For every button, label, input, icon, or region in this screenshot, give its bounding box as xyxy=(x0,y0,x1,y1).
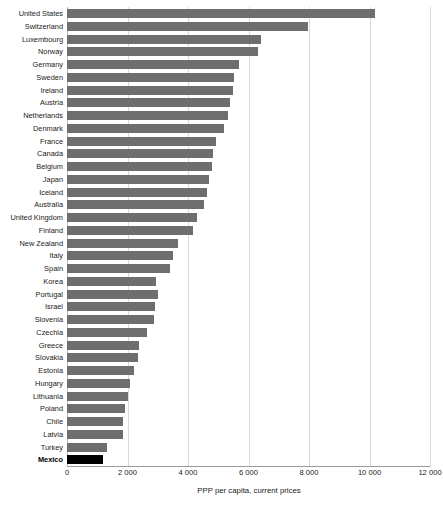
category-label: Czechia xyxy=(0,326,63,340)
bar xyxy=(67,366,134,375)
bar xyxy=(67,443,107,452)
bar-row xyxy=(67,224,430,238)
category-label: Mexico xyxy=(0,453,63,467)
bar xyxy=(67,264,170,273)
bar-row xyxy=(67,109,430,123)
bar-row xyxy=(67,441,430,455)
bar xyxy=(67,137,216,146)
bar-row xyxy=(67,364,430,378)
bar xyxy=(67,290,158,299)
category-label: United States xyxy=(0,7,63,21)
x-axis-tick-label: 8 000 xyxy=(299,468,318,477)
category-label: New Zealand xyxy=(0,237,63,251)
category-label: Spain xyxy=(0,262,63,276)
bar-row xyxy=(67,288,430,302)
bar xyxy=(67,392,128,401)
bar xyxy=(67,22,308,31)
x-axis-tick-label: 0 xyxy=(65,468,69,477)
category-label: Latvia xyxy=(0,428,63,442)
category-label: Canada xyxy=(0,147,63,161)
category-label: Sweden xyxy=(0,71,63,85)
bar xyxy=(67,200,204,209)
bar-row xyxy=(67,300,430,314)
bar xyxy=(67,188,207,197)
bar-row xyxy=(67,275,430,289)
category-label: Netherlands xyxy=(0,109,63,123)
x-axis-tick-label: 12 000 xyxy=(418,468,441,477)
bar-row xyxy=(67,198,430,212)
bar-row xyxy=(67,249,430,263)
bar-row xyxy=(67,33,430,47)
category-label: Germany xyxy=(0,58,63,72)
x-axis-tick-label: 4 000 xyxy=(178,468,197,477)
bar-row xyxy=(67,186,430,200)
bar xyxy=(67,86,233,95)
gridline xyxy=(430,7,431,466)
bar-row xyxy=(67,326,430,340)
bar-row xyxy=(67,147,430,161)
bar-row xyxy=(67,84,430,98)
bar xyxy=(67,162,212,171)
category-label: Norway xyxy=(0,45,63,59)
bar xyxy=(67,149,213,158)
bar-row xyxy=(67,160,430,174)
bar xyxy=(67,239,178,248)
bar-row xyxy=(67,415,430,429)
bar-row xyxy=(67,45,430,59)
bar xyxy=(67,9,375,18)
bar xyxy=(67,328,147,337)
category-label: Korea xyxy=(0,275,63,289)
bar xyxy=(67,277,156,286)
x-axis-tick-labels: 02 0004 0006 0008 00010 00012 000 xyxy=(67,468,430,482)
category-label: Israel xyxy=(0,300,63,314)
bar-row xyxy=(67,135,430,149)
bar xyxy=(67,251,173,260)
bar xyxy=(67,404,125,413)
bar-row xyxy=(67,402,430,416)
bar-row xyxy=(67,173,430,187)
category-label: Greece xyxy=(0,339,63,353)
bar xyxy=(67,417,123,426)
bar-row xyxy=(67,71,430,85)
bar-row xyxy=(67,7,430,21)
category-label: Luxembourg xyxy=(0,33,63,47)
bar xyxy=(67,315,154,324)
bar-row xyxy=(67,20,430,34)
x-axis-tick-label: 2 000 xyxy=(118,468,137,477)
category-label: Turkey xyxy=(0,441,63,455)
bar-chart: United StatesSwitzerlandLuxembourgNorway… xyxy=(0,0,443,508)
category-label: Poland xyxy=(0,402,63,416)
bar-row xyxy=(67,339,430,353)
bar xyxy=(67,111,228,120)
x-axis-tick-label: 10 000 xyxy=(358,468,381,477)
category-label: Portugal xyxy=(0,288,63,302)
bar xyxy=(67,341,139,350)
category-label: Finland xyxy=(0,224,63,238)
bar xyxy=(67,60,239,69)
x-axis-line xyxy=(67,466,430,467)
bar xyxy=(67,455,103,464)
bar xyxy=(67,302,155,311)
bar-row xyxy=(67,351,430,365)
category-label: Slovakia xyxy=(0,351,63,365)
bar-row xyxy=(67,122,430,136)
category-label: Australia xyxy=(0,198,63,212)
bar xyxy=(67,35,261,44)
plot-area xyxy=(67,7,430,466)
bar-row xyxy=(67,262,430,276)
category-label: Belgium xyxy=(0,160,63,174)
bar-row xyxy=(67,390,430,404)
bar-row xyxy=(67,377,430,391)
category-axis-labels: United StatesSwitzerlandLuxembourgNorway… xyxy=(0,7,63,466)
x-axis-tick-label: 6 000 xyxy=(239,468,258,477)
bar-row xyxy=(67,313,430,327)
category-label: Hungary xyxy=(0,377,63,391)
category-label: Austria xyxy=(0,96,63,110)
bar xyxy=(67,379,130,388)
bar-rows xyxy=(67,7,430,466)
bar xyxy=(67,47,258,56)
category-label: Italy xyxy=(0,249,63,263)
bar xyxy=(67,430,123,439)
category-label: Estonia xyxy=(0,364,63,378)
bar xyxy=(67,175,209,184)
